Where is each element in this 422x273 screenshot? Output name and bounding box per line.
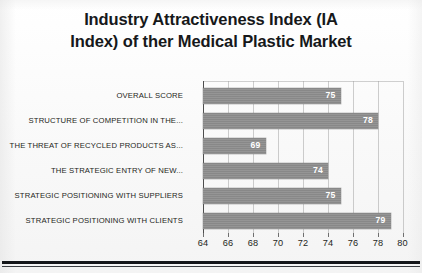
x-axis-tick-label: 76 [340, 238, 366, 248]
x-axis-tick [303, 233, 304, 237]
x-axis-tick-label: 78 [365, 238, 391, 248]
x-axis-tick-label: 72 [290, 238, 316, 248]
x-axis-tick [403, 233, 404, 237]
chart-row: STRATEGIC POSITIONING WITH CLIENTS 79 [14, 209, 404, 233]
category-label: STRATEGIC POSITIONING WITH SUPPLIERS [0, 184, 183, 208]
x-axis-tick-label: 68 [240, 238, 266, 248]
x-axis-tick-label: 64 [190, 238, 216, 248]
page-bottom-rule-secondary [2, 266, 420, 267]
x-axis-tick [203, 233, 204, 237]
bar-value-label: 74 [298, 163, 323, 178]
bar-value-label: 75 [311, 188, 336, 203]
plot-area: OVERALL SCORE 75 STRUCTURE OF COMPETITIO… [0, 0, 422, 273]
x-axis-tick-label: 80 [390, 238, 416, 248]
category-label: STRUCTURE OF COMPETITION IN THE... [0, 109, 183, 133]
bar-value-label: 69 [236, 138, 261, 153]
x-axis-tick [228, 233, 229, 237]
bar-track: 75 [203, 84, 403, 108]
x-axis-tick-label: 66 [215, 238, 241, 248]
bar-track: 79 [203, 209, 403, 233]
chart-card: Industry Attractiveness Index (IA Index)… [0, 0, 422, 273]
chart-row: THE THREAT OF RECYCLED PRODUCTS AS... 69 [14, 134, 404, 158]
x-axis-tick [278, 233, 279, 237]
bar-value-label: 75 [311, 88, 336, 103]
x-axis-tick [353, 233, 354, 237]
chart-row: STRUCTURE OF COMPETITION IN THE... 78 [14, 109, 404, 133]
x-axis-tick [328, 233, 329, 237]
category-label: STRATEGIC POSITIONING WITH CLIENTS [0, 209, 183, 233]
x-axis-tick-label: 74 [315, 238, 341, 248]
category-label: OVERALL SCORE [0, 84, 183, 108]
x-axis-tick [253, 233, 254, 237]
bar-track: 78 [203, 109, 403, 133]
page-bottom-rule [2, 261, 420, 264]
bar-track: 74 [203, 159, 403, 183]
bar-track: 75 [203, 184, 403, 208]
x-axis-tick [378, 233, 379, 237]
category-label: THE THREAT OF RECYCLED PRODUCTS AS... [0, 134, 183, 158]
x-axis-tick-label: 70 [265, 238, 291, 248]
bar-value-label: 78 [348, 113, 373, 128]
bar-track: 69 [203, 134, 403, 158]
chart-row: STRATEGIC POSITIONING WITH SUPPLIERS 75 [14, 184, 404, 208]
chart-row: OVERALL SCORE 75 [14, 84, 404, 108]
chart-row: THE STRATEGIC ENTRY OF NEW... 74 [14, 159, 404, 183]
bar-value-label: 79 [361, 213, 386, 228]
category-label: THE STRATEGIC ENTRY OF NEW... [0, 159, 183, 183]
